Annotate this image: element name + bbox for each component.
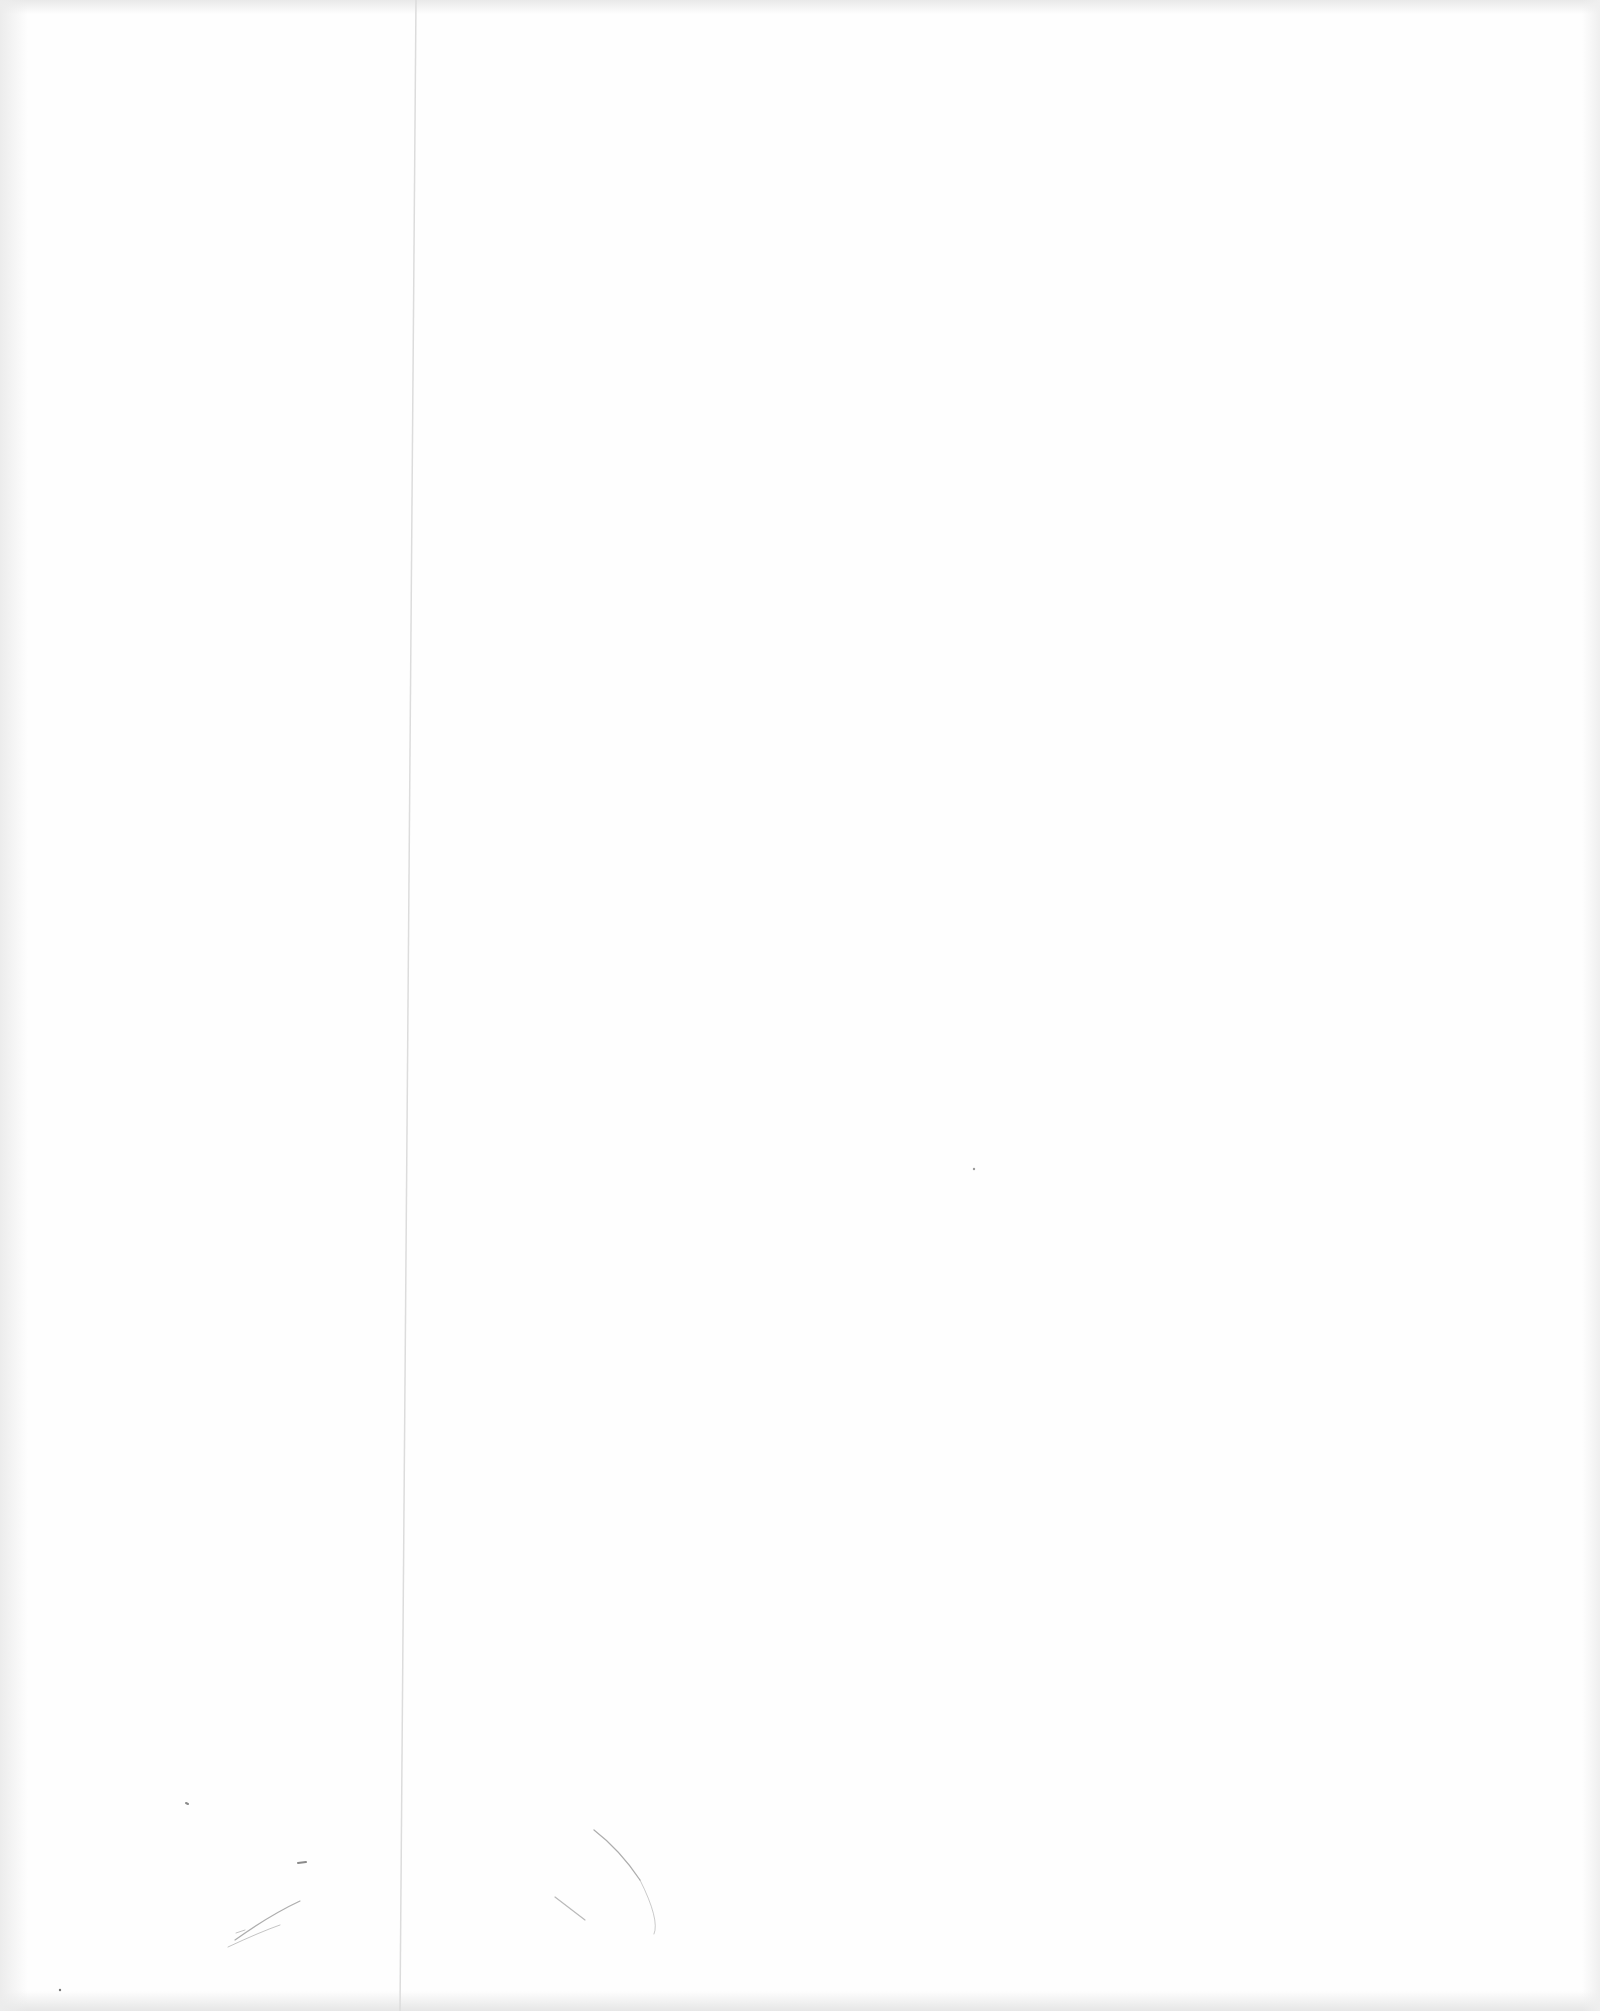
blank-page (0, 0, 1600, 2011)
stray-pencil-marks (0, 0, 1600, 2011)
